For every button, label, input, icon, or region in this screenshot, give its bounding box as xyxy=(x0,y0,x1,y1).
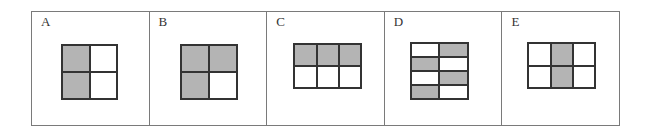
grid-figure xyxy=(527,42,596,89)
option-label: B xyxy=(159,14,168,30)
option-panel-e[interactable]: E xyxy=(502,12,619,125)
option-label: E xyxy=(511,14,519,30)
empty-cell xyxy=(440,86,467,98)
options-strip: A B C D E xyxy=(31,11,620,126)
filled-cell xyxy=(440,44,467,56)
grid-figure xyxy=(293,43,362,89)
filled-cell xyxy=(182,73,208,98)
option-label: A xyxy=(41,14,50,30)
filled-cell xyxy=(340,45,360,65)
empty-cell xyxy=(412,72,439,84)
empty-cell xyxy=(529,44,549,65)
empty-cell xyxy=(318,67,338,87)
option-panel-a[interactable]: A xyxy=(32,12,150,125)
filled-cell xyxy=(63,73,89,98)
option-panel-d[interactable]: D xyxy=(385,12,503,125)
empty-cell xyxy=(440,58,467,70)
empty-cell xyxy=(574,44,594,65)
empty-cell xyxy=(574,67,594,88)
empty-cell xyxy=(91,46,117,71)
filled-cell xyxy=(210,46,236,71)
empty-cell xyxy=(91,73,117,98)
grid-figure xyxy=(61,44,118,100)
filled-cell xyxy=(412,86,439,98)
option-label: D xyxy=(394,14,403,30)
filled-cell xyxy=(440,72,467,84)
grid-figure xyxy=(410,42,469,100)
empty-cell xyxy=(295,67,315,87)
option-panel-b[interactable]: B xyxy=(150,12,268,125)
empty-cell xyxy=(529,67,549,88)
filled-cell xyxy=(552,44,572,65)
filled-cell xyxy=(63,46,89,71)
grid-figure xyxy=(180,44,238,100)
empty-cell xyxy=(340,67,360,87)
filled-cell xyxy=(412,58,439,70)
filled-cell xyxy=(295,45,315,65)
empty-cell xyxy=(210,73,236,98)
filled-cell xyxy=(318,45,338,65)
empty-cell xyxy=(412,44,439,56)
filled-cell xyxy=(182,46,208,71)
filled-cell xyxy=(552,67,572,88)
option-panel-c[interactable]: C xyxy=(267,12,385,125)
option-label: C xyxy=(276,14,285,30)
